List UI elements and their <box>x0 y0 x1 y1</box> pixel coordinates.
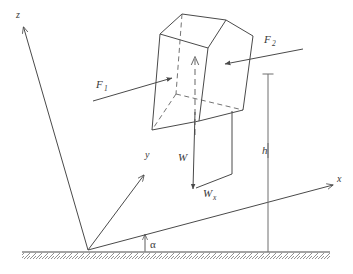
force-F2-label-base: F <box>263 33 271 45</box>
axis-z-label: z <box>15 9 20 20</box>
angle-alpha-label: α <box>150 238 156 250</box>
axis-y-line <box>88 175 144 250</box>
block-hidden-edge-right <box>176 94 243 110</box>
height-label: h <box>262 144 268 156</box>
height-line-h <box>263 74 274 252</box>
axis-y <box>88 175 144 250</box>
force-F1-label: F 1 <box>95 78 108 93</box>
force-Wx-label-base: W <box>203 187 213 199</box>
axis-y-label: y <box>144 149 150 160</box>
block-hidden-edge-left <box>152 94 176 130</box>
axis-z-line <box>24 27 89 250</box>
force-F2 <box>225 49 303 64</box>
force-W <box>193 112 195 189</box>
force-Wx-label-subscript: x <box>212 193 217 202</box>
block <box>152 14 253 130</box>
block-front-face <box>152 34 208 130</box>
force-F2-label-subscript: 2 <box>272 39 276 48</box>
axis-x-label: x <box>336 173 342 184</box>
block-hidden-edges <box>152 14 243 130</box>
force-F1-label-subscript: 1 <box>104 84 108 93</box>
force-F2-arrow <box>225 49 303 64</box>
force-F1-label-base: F <box>95 78 103 90</box>
ground-hatching <box>22 253 330 260</box>
force-Wx-arrow <box>196 174 232 188</box>
force-W-label: W <box>178 151 188 163</box>
force-Wx-label: W x <box>203 187 217 202</box>
block-top-face <box>160 14 226 34</box>
diagram-canvas: z y x α h F 1 F 2 W W x <box>0 0 353 274</box>
force-F2-label: F 2 <box>263 33 276 48</box>
block-hidden-vertical <box>176 14 182 94</box>
force-Wx <box>196 111 232 188</box>
physics-diagram: z y x α h F 1 F 2 W W x <box>0 0 353 274</box>
axis-z <box>24 27 89 250</box>
ground <box>22 252 330 260</box>
force-W-arrow <box>193 112 195 189</box>
